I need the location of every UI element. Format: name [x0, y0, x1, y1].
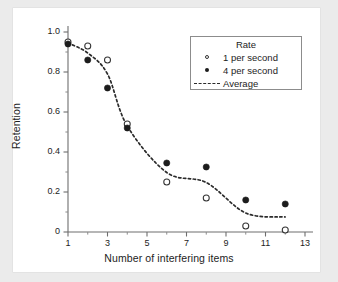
- data-point-1-per-second: [282, 227, 288, 233]
- dashed-line-icon: [194, 83, 220, 84]
- y-tick-label: 0: [34, 226, 60, 236]
- chart-legend: Rate 1 per second4 per secondAverage: [190, 36, 302, 90]
- data-point-4-per-second: [282, 201, 288, 207]
- data-point-4-per-second: [164, 160, 170, 166]
- x-axis-label: Number of interfering items: [0, 252, 338, 264]
- y-tick-label: 0.8: [34, 66, 60, 76]
- data-point-1-per-second: [105, 57, 111, 63]
- legend-entry-label: 1 per second: [223, 52, 278, 63]
- data-point-1-per-second: [164, 179, 170, 185]
- legend-entry-label: 4 per second: [223, 65, 278, 76]
- legend-title: Rate: [191, 39, 301, 50]
- data-point-4-per-second: [104, 85, 110, 91]
- x-tick-label: 11: [256, 238, 276, 248]
- data-point-1-per-second: [203, 195, 209, 201]
- x-tick-label: 9: [216, 238, 236, 248]
- open-circle-icon: [205, 55, 210, 60]
- data-point-4-per-second: [243, 197, 249, 203]
- data-point-1-per-second: [243, 223, 249, 229]
- y-tick-label: 0.2: [34, 186, 60, 196]
- y-tick-label: 1.0: [34, 26, 60, 36]
- data-point-4-per-second: [124, 125, 130, 131]
- data-point-4-per-second: [65, 41, 71, 47]
- filled-circle-icon: [205, 68, 210, 73]
- chart-figure: Number of interfering items Retention 00…: [0, 0, 338, 282]
- x-tick-label: 1: [58, 238, 78, 248]
- x-tick-label: 5: [137, 238, 157, 248]
- x-tick-label: 7: [177, 238, 197, 248]
- data-point-4-per-second: [85, 57, 91, 63]
- data-point-1-per-second: [85, 43, 91, 49]
- legend-marker: [191, 83, 223, 84]
- y-tick-label: 0.6: [34, 106, 60, 116]
- legend-marker: [191, 68, 223, 73]
- y-tick-label: 0.4: [34, 146, 60, 156]
- y-axis-label: Retention: [10, 86, 22, 166]
- data-point-4-per-second: [203, 164, 209, 170]
- x-tick-label: 3: [98, 238, 118, 248]
- legend-entry-label: Average: [223, 78, 258, 89]
- legend-entry: Average: [191, 77, 301, 89]
- legend-entry: 1 per second: [191, 51, 301, 63]
- x-tick-label: 13: [295, 238, 315, 248]
- legend-entry: 4 per second: [191, 64, 301, 76]
- legend-marker: [191, 55, 223, 60]
